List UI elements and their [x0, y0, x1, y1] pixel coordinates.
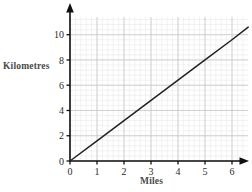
y-tick-label: 2 — [59, 130, 64, 141]
y-axis-ticks: 0246810 — [54, 29, 70, 166]
x-tick-label: 5 — [203, 166, 208, 177]
y-tick-label: 6 — [59, 80, 64, 91]
x-tick-label: 0 — [68, 166, 73, 177]
y-axis-title: Kilometres — [3, 61, 50, 71]
y-tick-label: 0 — [59, 156, 64, 167]
y-axis-arrow-icon — [66, 3, 74, 13]
x-tick-label: 1 — [95, 166, 100, 177]
x-axis-ticks: 0123456 — [68, 161, 235, 177]
x-axis-title: Miles — [140, 176, 163, 186]
y-tick-label: 8 — [59, 55, 64, 66]
y-tick-label: 10 — [54, 29, 64, 40]
conversion-graph: 0123456 0246810 Kilometres Miles — [0, 0, 252, 192]
x-tick-label: 6 — [230, 166, 235, 177]
x-tick-label: 4 — [176, 166, 181, 177]
x-axis-arrow-icon — [240, 157, 250, 165]
chart-canvas: 0123456 0246810 — [0, 0, 252, 192]
x-tick-label: 2 — [122, 166, 127, 177]
y-tick-label: 4 — [59, 105, 64, 116]
